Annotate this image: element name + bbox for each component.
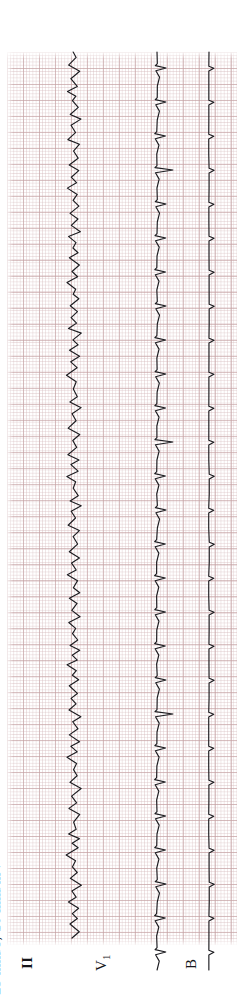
lead-v1-subscript: 1 xyxy=(101,955,112,960)
lead-label-b: B xyxy=(183,959,200,969)
ecg-paper-grid xyxy=(7,52,237,945)
ecg-trace-lead-b xyxy=(203,52,249,945)
calibration-label: 25 mm/s; 10 mm/mV xyxy=(0,861,4,995)
lead-label-v1: V1 xyxy=(93,955,112,971)
ecg-trace-lead-v1 xyxy=(133,52,193,945)
lead-v1-letter: V xyxy=(93,960,109,971)
lead-label-ii: II xyxy=(19,957,36,969)
ecg-trace-lead-ii xyxy=(45,52,105,945)
